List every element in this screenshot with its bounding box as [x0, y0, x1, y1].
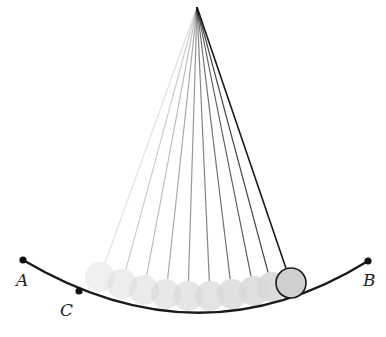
pendulum-figure: ABC [0, 0, 386, 337]
ghost-string [197, 7, 230, 279]
ghost-string [126, 7, 197, 270]
pendulum-ball [276, 268, 306, 298]
point-a-label: A [14, 270, 28, 290]
ghost-balls [85, 262, 287, 311]
point-b-marker [364, 257, 371, 264]
point-b-label: B [362, 270, 376, 290]
point-a-marker [19, 256, 26, 263]
point-c-label: C [60, 300, 73, 320]
point-c-marker [75, 287, 82, 294]
pendulum-diagram: ABC [0, 0, 386, 337]
